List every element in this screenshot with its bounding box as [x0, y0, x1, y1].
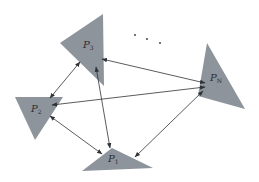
- edge-p3-pn: [102, 59, 205, 83]
- ellipsis-dot: [134, 34, 136, 36]
- network-diagram: P3PNP2P1: [0, 0, 259, 182]
- edges-layer: [50, 59, 205, 157]
- nodes-layer: [15, 14, 245, 171]
- edge-p2-p1: [50, 116, 102, 154]
- node-triangle-pn: [198, 43, 245, 109]
- ellipsis-dot: [159, 42, 161, 44]
- node-triangle-p2: [15, 97, 63, 140]
- ellipsis-dot: [146, 38, 148, 40]
- edge-p3-p2: [50, 62, 80, 98]
- edge-pn-p1: [135, 91, 203, 157]
- edge-p2-pn: [52, 87, 205, 105]
- diagram-canvas: P3PNP2P1: [0, 0, 259, 182]
- ellipsis-dots: [134, 34, 161, 44]
